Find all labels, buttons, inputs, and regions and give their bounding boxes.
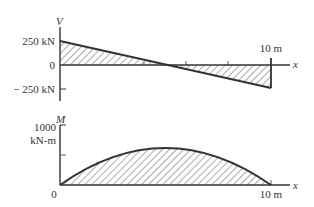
moment-unit-label: kN-m	[30, 134, 56, 146]
moment-x-label: x	[292, 179, 298, 191]
shear-zero-label: 0	[50, 59, 56, 71]
moment-axis-label: M	[55, 113, 66, 125]
beam-diagrams: V 250 kN 0 − 250 kN 10 m x M 1000 kN-m 0…	[0, 0, 314, 207]
shear-x-label: x	[292, 58, 298, 70]
shear-diagram: V 250 kN 0 − 250 kN 10 m x	[13, 15, 298, 101]
shear-neg-label: − 250 kN	[13, 83, 55, 95]
shear-axis-label: V	[56, 15, 64, 27]
moment-top-label: 1000	[34, 121, 57, 133]
moment-origin-label: 0	[51, 188, 57, 200]
shear-pos-label: 250 kN	[22, 35, 55, 47]
moment-x-end-label: 10 m	[260, 188, 283, 200]
moment-diagram: M 1000 kN-m 0 10 m x	[30, 113, 298, 200]
shear-x-end-label: 10 m	[260, 42, 283, 54]
